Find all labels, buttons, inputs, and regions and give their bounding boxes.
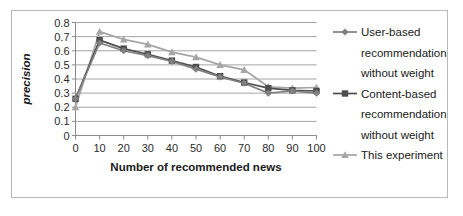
y-axis-tick-label: 0.6 bbox=[54, 45, 69, 57]
legend-label: recommendation bbox=[361, 47, 447, 59]
y-axis-line-group bbox=[72, 23, 76, 136]
legend-label: Content-based bbox=[361, 88, 436, 100]
chart-legend: User-basedrecommendationwithout weightCo… bbox=[333, 26, 447, 161]
chart-figure: 00.10.20.30.40.50.60.70.8 01020304050607… bbox=[0, 0, 463, 216]
y-axis-tick-label: 0.3 bbox=[54, 87, 69, 99]
x-axis-tick-label: 20 bbox=[118, 142, 130, 154]
y-axis-tick-label: 0.7 bbox=[54, 31, 69, 43]
x-axis-tick-label: 10 bbox=[93, 142, 105, 154]
legend-label: without weight bbox=[360, 67, 435, 79]
x-axis-tick-label: 70 bbox=[238, 142, 250, 154]
x-axis-tick-label: 100 bbox=[307, 142, 325, 154]
legend-label: recommendation bbox=[361, 108, 447, 120]
y-axis-title: precision bbox=[20, 53, 32, 105]
y-axis-tick-labels: 00.10.20.30.40.50.60.70.8 bbox=[54, 17, 69, 142]
x-axis-tick-label: 80 bbox=[262, 142, 274, 154]
x-axis-tick-labels: 0102030405060708090100 bbox=[72, 142, 325, 154]
legend-key-marker-diamond bbox=[341, 28, 348, 35]
series-marker-triangle bbox=[96, 28, 104, 35]
y-axis-tick-label: 0.8 bbox=[54, 17, 69, 29]
x-axis-tick-label: 60 bbox=[214, 142, 226, 154]
legend-label: without weight bbox=[360, 129, 435, 141]
y-axis-tick-label: 0.4 bbox=[54, 73, 69, 85]
x-axis-tick-label: 50 bbox=[190, 142, 202, 154]
x-axis-tick-label: 90 bbox=[286, 142, 298, 154]
y-axis-tick-label: 0.2 bbox=[54, 101, 69, 113]
legend-label: User-based bbox=[361, 26, 420, 38]
y-axis-tick-label: 0.1 bbox=[54, 115, 69, 127]
gridlines-group bbox=[76, 23, 317, 136]
y-axis-tick-label: 0.5 bbox=[54, 59, 69, 71]
legend-label: This experiment bbox=[361, 149, 444, 161]
x-axis-tick-label: 30 bbox=[142, 142, 154, 154]
x-axis-tick-label: 0 bbox=[72, 142, 78, 154]
precision-line-chart: 00.10.20.30.40.50.60.70.8 01020304050607… bbox=[0, 0, 463, 216]
y-axis-tick-label: 0 bbox=[63, 130, 69, 142]
x-axis-title: Number of recommended news bbox=[110, 161, 281, 173]
x-axis-line-group bbox=[76, 136, 317, 140]
legend-key-marker-square bbox=[342, 90, 348, 96]
data-series-group bbox=[72, 28, 321, 110]
x-axis-tick-label: 40 bbox=[166, 142, 178, 154]
